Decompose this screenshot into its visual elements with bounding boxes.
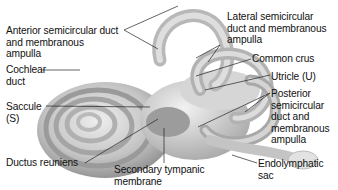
label-lateral-semicircular-duct: Lateral semicircular duct and membranous… <box>227 11 326 46</box>
label-endolymphatic-sac: Endolymphatic sac <box>258 158 324 181</box>
label-posterior-semicircular-duct: Posterior semicircular duct and membrano… <box>271 88 329 146</box>
inner-ear-diagram: Anterior semicircular duct and membranou… <box>0 0 338 190</box>
label-secondary-tympanic-membrane: Secondary tympanic membrane <box>114 164 205 187</box>
label-ductus-reuniens: Ductus reuniens <box>6 157 78 169</box>
label-utricle: Utricle (U) <box>271 71 316 83</box>
label-common-crus: Common crus <box>252 53 314 65</box>
label-anterior-semicircular-duct: Anterior semicircular duct and membranou… <box>6 25 118 60</box>
label-cochlear-duct: Cochlear duct <box>6 64 46 87</box>
label-saccule: Saccule (S) <box>6 101 42 124</box>
